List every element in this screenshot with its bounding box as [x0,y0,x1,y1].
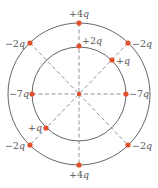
diagonal-line-b [79,94,128,145]
charge-outer-lower-left [27,142,32,147]
charge-outer-bottom [76,162,81,167]
charge-outer-upper-left [27,40,32,45]
charge-outer-top [76,20,81,25]
charge-label-outer-upper-left: −2q [5,38,25,49]
charge-label-inner-lower-left: +q [28,122,42,133]
charge-label-outer-lower-right: −2q [132,140,152,151]
charge-label-outer-top: +4q [69,8,89,19]
charge-inner-lower-left [43,125,48,130]
charge-inner-right [123,91,128,96]
center-point [77,92,81,96]
charge-outer-upper-right [125,40,130,45]
charge-inner-upper-right [109,57,114,62]
charge-label-inner-top: +2q [82,35,102,46]
charge-label-inner-upper-right: +q [116,55,130,66]
charge-label-inner-right: −7q [129,88,149,99]
charge-label-inner-left: −7q [9,88,29,99]
charge-label-outer-bottom: +4q [69,169,89,180]
charge-inner-top [76,43,81,48]
charge-label-outer-lower-left: −2q [5,140,25,151]
charge-label-outer-upper-right: −2q [132,38,152,49]
charges [27,20,130,167]
charge-diagram: +4q+4q−2q−2q−2q−2q+2q+q+q−7q−7q [0,0,158,188]
charge-outer-lower-right [125,142,130,147]
charge-inner-left [29,91,34,96]
diagonal-line-a [30,43,79,94]
